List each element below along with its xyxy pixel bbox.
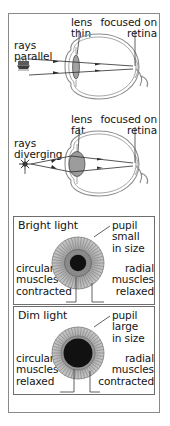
eye-diagram-figure: rays parallel lens thin focused on retin…	[0, 0, 170, 426]
near-eye-drawing	[9, 108, 159, 208]
bright-pupil-drawing	[14, 217, 156, 306]
iris-dim	[52, 327, 104, 379]
near-flower-icon	[19, 158, 31, 174]
accommodation-near-panel: rays diverging lens fat focused on retin…	[9, 108, 159, 208]
bright-light-panel: Bright light pupil small in size circula…	[13, 216, 155, 305]
distant-ship-icon	[17, 58, 30, 71]
dim-light-panel: Dim light pupil large in size circular m…	[13, 306, 155, 395]
dim-pupil-drawing	[14, 307, 156, 396]
iris-bright	[52, 237, 104, 289]
